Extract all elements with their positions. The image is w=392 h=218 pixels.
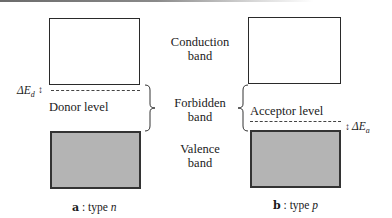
donor-level-label: Donor level	[49, 100, 108, 114]
valence-band-box-b	[250, 130, 341, 188]
valence-band-box-a	[50, 131, 141, 189]
acceptor-level-label: Acceptor level	[250, 104, 323, 118]
valence-band-label: Valence band	[155, 142, 245, 170]
brace-left-icon-b	[236, 84, 250, 132]
conduction-band-box-b	[248, 17, 341, 84]
caption-a: a : type n	[72, 200, 117, 215]
page-edge-shadow	[0, 0, 392, 2]
forbidden-band-label: Forbidden band	[155, 96, 245, 124]
delta-ed-label: ΔEd	[17, 83, 35, 102]
delta-ed-arrow-icon: ↕	[38, 85, 43, 95]
delta-ea-arrow-icon: ↕	[345, 122, 350, 132]
caption-b: b : type p	[273, 198, 318, 213]
conduction-band-label: Conduction band	[155, 35, 245, 63]
donor-level-line	[51, 90, 140, 91]
conduction-band-box-a	[49, 18, 140, 85]
acceptor-level-line	[250, 121, 341, 122]
delta-ea-label: ΔEa	[352, 119, 370, 138]
